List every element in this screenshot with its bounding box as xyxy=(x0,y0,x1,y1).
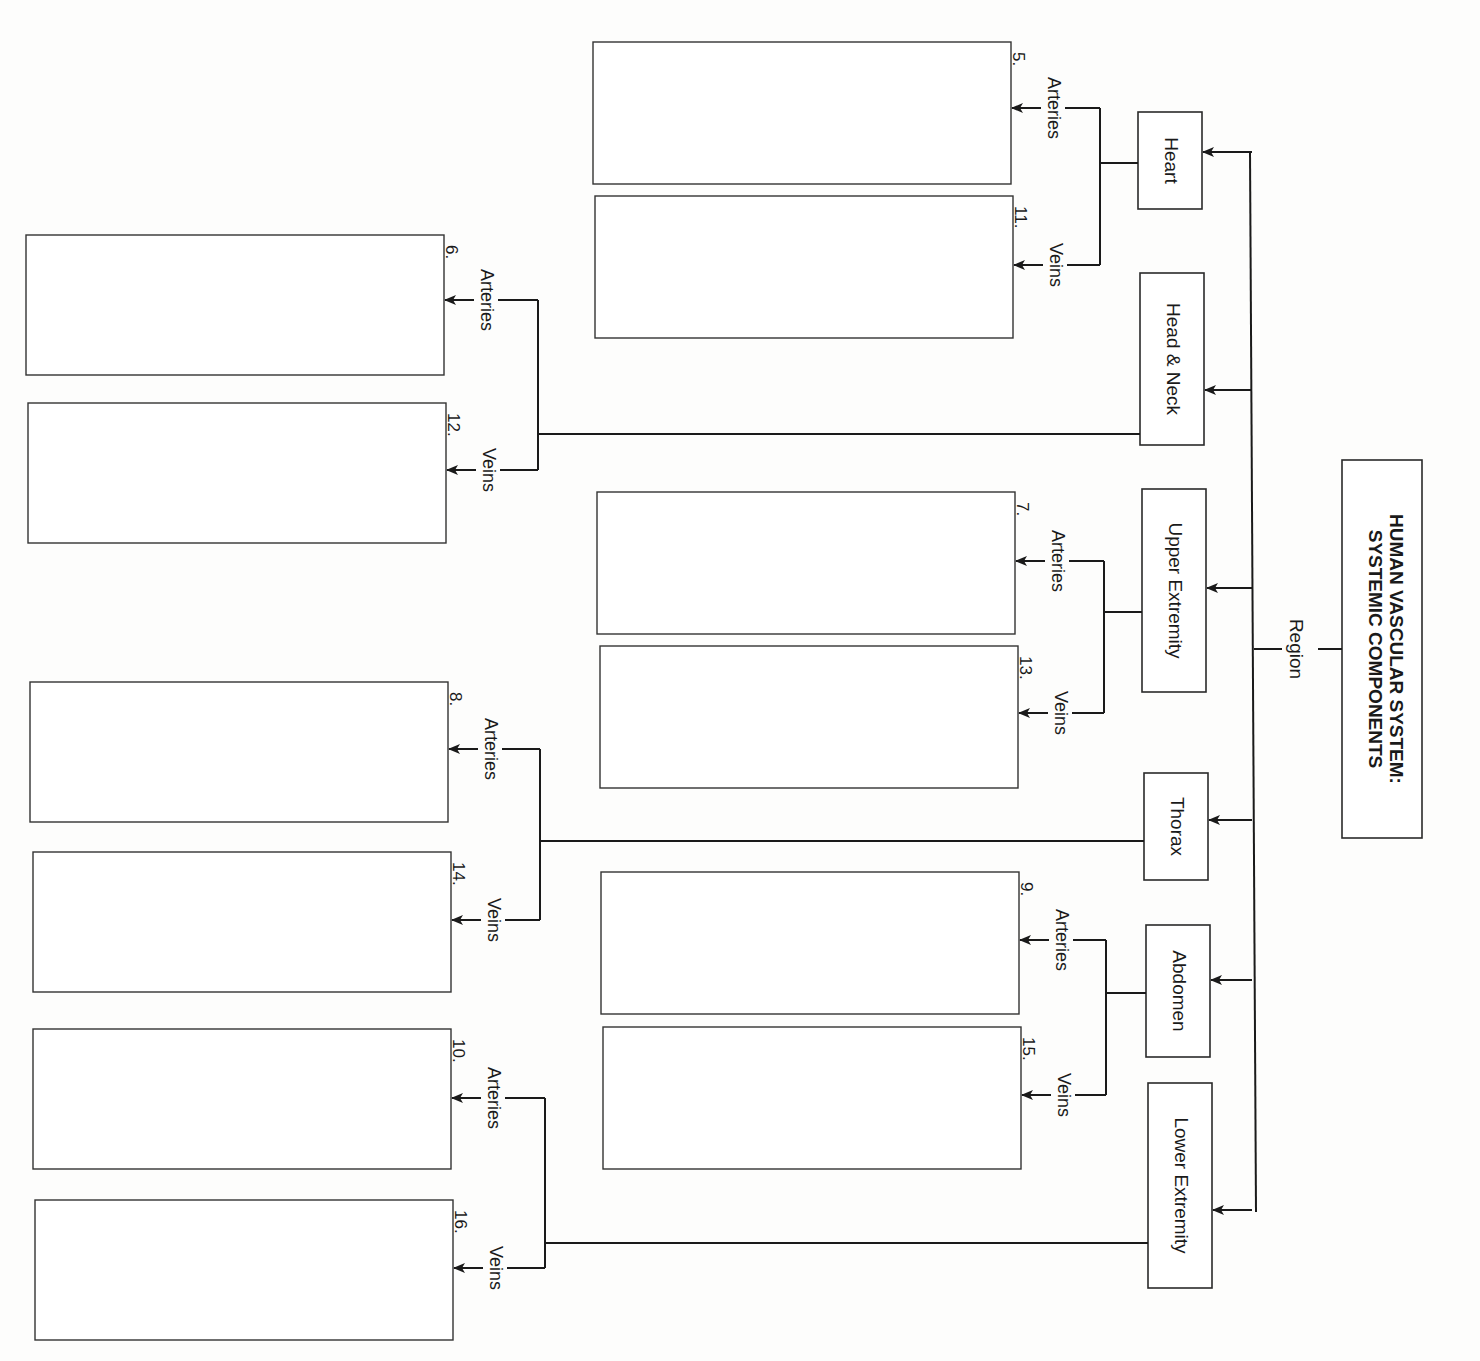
region-label-head-and-neck: Head & Neck xyxy=(1163,303,1184,415)
arteries-label: Arteries xyxy=(484,1067,504,1129)
answer-box-14[interactable] xyxy=(33,852,451,992)
answer-box-10[interactable] xyxy=(33,1029,451,1169)
arteries-label: Arteries xyxy=(1044,77,1064,139)
region-connector: Region xyxy=(1250,152,1342,1212)
answer-box-5[interactable] xyxy=(593,42,1011,184)
region-label-upper-extremity: Upper Extremity xyxy=(1165,522,1186,659)
answer-box-13[interactable] xyxy=(600,646,1018,788)
answer-number: 14. xyxy=(449,862,468,886)
answer-box-12[interactable] xyxy=(28,403,446,543)
answer-number: 9. xyxy=(1017,882,1036,896)
title-box: HUMAN VASCULAR SYSTEM: SYSTEMIC COMPONEN… xyxy=(1342,460,1422,838)
arteries-label: Arteries xyxy=(1052,909,1072,971)
region-label-abdomen: Abdomen xyxy=(1169,950,1190,1031)
answer-number: 15. xyxy=(1019,1037,1038,1061)
veins-label: Veins xyxy=(479,448,499,492)
answer-box-7[interactable] xyxy=(597,492,1015,634)
answer-box-16[interactable] xyxy=(35,1200,453,1340)
answer-box-9[interactable] xyxy=(601,872,1019,1014)
title-line-2: SYSTEMIC COMPONENTS xyxy=(1365,530,1386,769)
veins-label: Veins xyxy=(1051,691,1071,735)
region-label-thorax: Thorax xyxy=(1167,797,1188,857)
title-line-1: HUMAN VASCULAR SYSTEM: xyxy=(1386,514,1407,784)
answer-number: 13. xyxy=(1016,656,1035,680)
answer-box-8[interactable] xyxy=(30,682,448,822)
arteries-label: Arteries xyxy=(481,718,501,780)
answer-number: 11. xyxy=(1011,206,1030,228)
region-label-lower-extremity: Lower Extremity xyxy=(1171,1117,1192,1254)
region-label-heart: Heart xyxy=(1161,137,1182,184)
region-upper-extremity: Upper ExtremityArteries7.Veins13. xyxy=(597,489,1252,788)
answer-number: 7. xyxy=(1013,502,1032,516)
regions-layer: HeartArteries5.Veins11.Head & NeckArteri… xyxy=(26,42,1252,1340)
veins-label: Veins xyxy=(1046,243,1066,287)
arteries-label: Arteries xyxy=(477,269,497,331)
answer-number: 16. xyxy=(451,1210,470,1234)
answer-number: 5. xyxy=(1009,52,1028,66)
answer-number: 10. xyxy=(449,1039,468,1063)
answer-number: 6. xyxy=(442,245,461,259)
vascular-tree-diagram: HUMAN VASCULAR SYSTEM: SYSTEMIC COMPONEN… xyxy=(0,0,1480,1361)
answer-box-6[interactable] xyxy=(26,235,444,375)
answer-box-15[interactable] xyxy=(603,1027,1021,1169)
arteries-label: Arteries xyxy=(1048,530,1068,592)
veins-label: Veins xyxy=(486,1246,506,1290)
answer-number: 8. xyxy=(446,692,465,706)
answer-number: 12. xyxy=(444,413,463,437)
veins-label: Veins xyxy=(1054,1073,1074,1117)
region-label: Region xyxy=(1286,619,1307,679)
diagram-page: HUMAN VASCULAR SYSTEM: SYSTEMIC COMPONEN… xyxy=(0,0,1480,1361)
answer-box-11[interactable] xyxy=(595,196,1013,338)
veins-label: Veins xyxy=(484,898,504,942)
